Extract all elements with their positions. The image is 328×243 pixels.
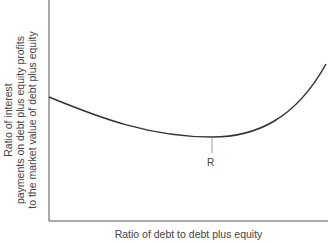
cost-curve — [49, 64, 326, 137]
r-marker-label: R — [207, 157, 214, 168]
y-axis-label-line-1: Ratio of interest — [2, 0, 14, 240]
y-axis-label: Ratio of interest payments on debt plus … — [2, 0, 38, 240]
y-axis-label-line-2: payments on debt plus equity profits — [14, 0, 26, 240]
x-axis-label: Ratio of debt to debt plus equity — [49, 228, 328, 240]
chart-canvas — [0, 0, 328, 243]
y-axis-label-line-3: to the market value of debt plus equity — [26, 0, 38, 240]
